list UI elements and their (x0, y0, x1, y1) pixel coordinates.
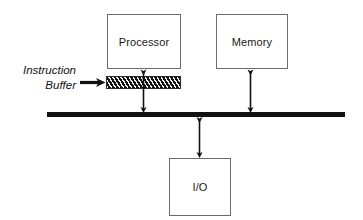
bus-architecture-diagram: Processor Memory I/O Instruction Buffer (0, 0, 363, 220)
instruction-buffer-caption: Instruction Buffer (8, 63, 76, 93)
instruction-buffer-caption-line1: Instruction (8, 63, 76, 78)
io-label: I/O (193, 181, 208, 193)
memory-box[interactable]: Memory (216, 14, 288, 69)
processor-label: Processor (119, 36, 169, 48)
instruction-buffer-bar[interactable] (106, 76, 181, 89)
memory-label: Memory (232, 36, 272, 48)
processor-box[interactable]: Processor (107, 14, 181, 69)
system-bus-line (47, 112, 345, 117)
instruction-buffer-caption-line2: Buffer (8, 78, 76, 93)
io-box[interactable]: I/O (169, 158, 231, 216)
